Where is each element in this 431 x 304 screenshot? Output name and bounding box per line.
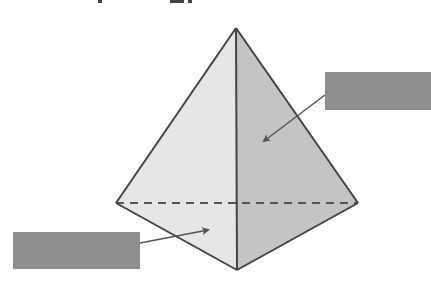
- label-box-right-face: [325, 72, 431, 110]
- edge-apex-front: [236, 28, 237, 270]
- right-face: [236, 28, 358, 270]
- label-box-left-face: [13, 232, 140, 269]
- pyramid-edges: [116, 28, 358, 270]
